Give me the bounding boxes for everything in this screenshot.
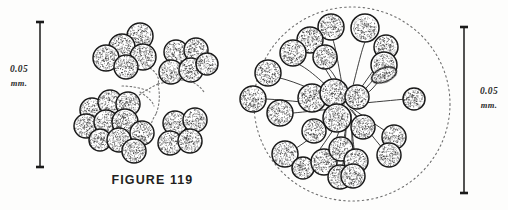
upper-left-cluster bbox=[93, 23, 156, 79]
cell bbox=[313, 45, 337, 69]
cell bbox=[240, 86, 266, 112]
filament bbox=[122, 86, 150, 92]
filament bbox=[140, 92, 154, 106]
scale-label-left: 0.05 mm. bbox=[2, 62, 36, 90]
cell bbox=[178, 129, 202, 153]
scale-unit-left: mm. bbox=[2, 77, 36, 90]
cell bbox=[196, 53, 218, 75]
cell bbox=[377, 143, 401, 167]
cell bbox=[351, 115, 375, 139]
scale-value-left: 0.05 bbox=[2, 62, 36, 77]
right-figure bbox=[240, 7, 450, 201]
cell bbox=[255, 60, 281, 86]
scale-value-right: 0.05 bbox=[472, 84, 506, 99]
cell bbox=[114, 55, 138, 79]
cell bbox=[122, 139, 146, 163]
colony-cells bbox=[240, 14, 425, 189]
cell bbox=[267, 100, 293, 126]
scale-unit-right: mm. bbox=[472, 99, 506, 112]
upper-right-cluster bbox=[159, 38, 218, 84]
figure-caption: FIGURE 119 bbox=[60, 173, 245, 187]
cell bbox=[302, 119, 326, 143]
cell bbox=[403, 88, 425, 110]
left-figure bbox=[74, 23, 218, 163]
cell bbox=[320, 79, 348, 107]
cell bbox=[280, 40, 306, 66]
filament bbox=[150, 68, 159, 84]
cell bbox=[345, 85, 369, 109]
scale-bar-left bbox=[36, 22, 44, 167]
lower-left-cluster bbox=[74, 90, 154, 163]
cell bbox=[341, 164, 365, 188]
scale-bar-right bbox=[460, 27, 468, 193]
lower-right-cluster bbox=[158, 108, 207, 155]
cell bbox=[183, 108, 207, 132]
filament bbox=[156, 84, 159, 114]
scale-label-right: 0.05 mm. bbox=[472, 84, 506, 112]
cell bbox=[351, 14, 379, 42]
cell bbox=[323, 104, 351, 132]
